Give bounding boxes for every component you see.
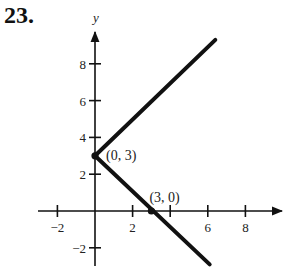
x-tick-label: −2: [50, 220, 64, 235]
y-tick-label: 8: [80, 57, 87, 72]
point-marker: [91, 152, 98, 159]
x-tick-label: 8: [242, 220, 249, 235]
y-tick-label: 4: [80, 130, 87, 145]
ticks: −2268−22468: [50, 57, 248, 256]
point-label: (3, 0): [149, 190, 180, 206]
x-tick-label: 2: [129, 220, 136, 235]
problem-number: 23.: [4, 2, 34, 29]
point-label: (0, 3): [106, 148, 137, 164]
y-tick-label: 2: [80, 167, 87, 182]
graph-ray: [95, 40, 215, 156]
graph-figure: 23. y −2268−22468 (0, 3)(3, 0): [0, 0, 289, 277]
y-tick-label: −2: [72, 241, 86, 256]
point-marker: [148, 207, 155, 214]
x-tick-label: 6: [205, 220, 212, 235]
annotations: (0, 3)(3, 0): [91, 148, 180, 215]
y-axis-label: y: [91, 10, 99, 25]
y-tick-label: 6: [80, 94, 87, 109]
plot-area: y −2268−22468 (0, 3)(3, 0): [0, 0, 289, 277]
